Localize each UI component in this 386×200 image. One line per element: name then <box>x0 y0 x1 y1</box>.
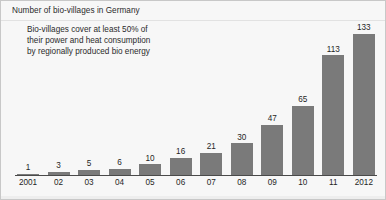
bar-slot[interactable]: 10 <box>139 23 161 175</box>
bar-slot[interactable]: 5 <box>78 23 100 175</box>
bar-slot[interactable]: 113 <box>322 23 344 175</box>
bar-slot[interactable]: 16 <box>170 23 192 175</box>
bar-slot[interactable]: 133 <box>353 23 375 175</box>
bar-value-label: 21 <box>207 143 216 151</box>
bar-value-label: 3 <box>56 162 61 170</box>
x-axis-tick-label: 06 <box>170 178 192 187</box>
bar-value-label: 16 <box>176 148 185 156</box>
bar-slot[interactable]: 65 <box>292 23 314 175</box>
bar-series: 1356101621304765113133 <box>17 23 375 175</box>
bar-value-label: 65 <box>298 96 307 104</box>
bar-slot[interactable]: 6 <box>109 23 131 175</box>
bar-slot[interactable]: 30 <box>231 23 253 175</box>
x-axis-tick-label: 09 <box>261 178 283 187</box>
x-axis-tick-label: 04 <box>109 178 131 187</box>
bar-value-label: 1 <box>26 164 31 172</box>
bar-rect[interactable] <box>231 143 253 175</box>
x-axis-tick-label: 2001 <box>17 178 39 187</box>
chart-title: Number of bio-villages in Germany <box>12 6 140 15</box>
bar-slot[interactable]: 1 <box>17 23 39 175</box>
bar-value-label: 113 <box>327 46 340 54</box>
bar-value-label: 5 <box>87 160 92 168</box>
x-axis-tick-label: 03 <box>78 178 100 187</box>
x-axis-line <box>15 175 377 176</box>
bar-value-label: 47 <box>268 115 277 123</box>
bar-slot[interactable]: 3 <box>48 23 70 175</box>
bar-rect[interactable] <box>261 125 283 175</box>
bar-rect[interactable] <box>322 55 344 175</box>
bottom-divider <box>1 196 386 199</box>
bar-rect[interactable] <box>139 164 161 175</box>
bar-value-label: 6 <box>117 159 122 167</box>
x-axis-tick-label: 07 <box>200 178 222 187</box>
title-divider <box>1 20 386 21</box>
chart-figure: Number of bio-villages in Germany Bio-vi… <box>0 0 386 200</box>
bar-slot[interactable]: 47 <box>261 23 283 175</box>
x-axis-tick-label: 10 <box>292 178 314 187</box>
bar-rect[interactable] <box>200 153 222 175</box>
bar-value-label: 133 <box>357 24 371 32</box>
plot-area: 1356101621304765113133 <box>17 23 375 175</box>
x-axis-tick-label: 08 <box>231 178 253 187</box>
bar-value-label: 30 <box>237 134 246 142</box>
bar-slot[interactable]: 21 <box>200 23 222 175</box>
x-axis-tick-label: 11 <box>322 178 344 187</box>
bar-value-label: 10 <box>146 155 155 163</box>
x-axis-tick-label: 05 <box>139 178 161 187</box>
bar-rect[interactable] <box>170 158 192 175</box>
x-axis-tick-label: 2012 <box>353 178 375 187</box>
x-axis-labels: 2001020304050607080910112012 <box>17 178 375 187</box>
bar-rect[interactable] <box>292 106 314 175</box>
bar-rect[interactable] <box>353 34 375 175</box>
x-axis-tick-label: 02 <box>48 178 70 187</box>
